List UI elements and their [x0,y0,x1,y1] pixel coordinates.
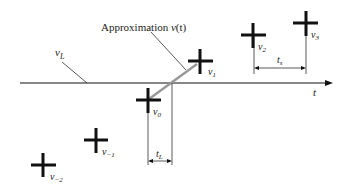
approximation-label: Approximation v(t) [101,21,187,34]
approximation-line [149,64,197,99]
approximation-leader [151,32,186,70]
sample-label: v0 [153,106,161,119]
sample-label: v3 [311,29,319,42]
sample-label: v−2 [50,171,63,184]
tL-label: tL [156,148,163,161]
axis-label-t: t [313,86,317,98]
sample-label: v1 [208,66,216,79]
sampling-diagram: t Approximation v(t) vL tL ts v [0,0,349,187]
axis-arrow-icon [325,80,333,86]
level-label: vL [55,46,65,61]
level-leader [62,62,87,83]
ts-label: ts [277,54,283,67]
time-axis [20,80,333,86]
sample-label: v2 [258,41,266,54]
sample-label: v−1 [102,146,115,159]
